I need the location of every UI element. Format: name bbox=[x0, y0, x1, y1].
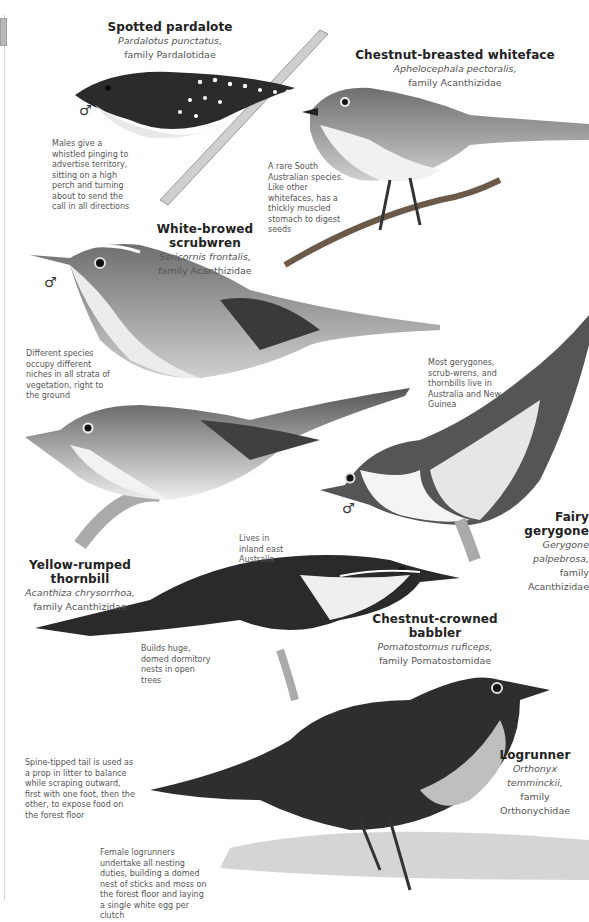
common-name: Spotted pardalote bbox=[100, 20, 240, 34]
common-name: Chestnut-breasted whiteface bbox=[355, 48, 555, 62]
species-label-chestnut-crowned-babbler: Chestnut-crowned babbler Pomatostomus ru… bbox=[370, 612, 500, 668]
common-name: Logrunner bbox=[485, 748, 585, 762]
scientific-name: Orthonyx temminckii, bbox=[485, 762, 585, 790]
species-label-yellow-rumped-thornbill: Yellow-rumped thornbill Acanthiza chryso… bbox=[15, 558, 145, 614]
common-name: White-browed scrubwren bbox=[135, 222, 275, 250]
family-name: family Orthonychidae bbox=[485, 790, 585, 818]
family-name: family Acanthizidae bbox=[355, 76, 555, 90]
male-symbol-scrubwren: ♂ bbox=[44, 274, 57, 290]
species-label-fairy-gerygone: Fairy gerygone Gerygone palpebrosa, fami… bbox=[500, 510, 589, 594]
note-scrubwren: Different species occupy different niche… bbox=[26, 349, 116, 402]
family-name: family Acanthizidae bbox=[15, 600, 145, 614]
species-label-spotted-pardalote: Spotted pardalote Pardalotus punctatus, … bbox=[100, 20, 240, 62]
common-name: Chestnut-crowned babbler bbox=[370, 612, 500, 640]
note-gerygone: Most gerygones, scrub-wrens, and thornbi… bbox=[428, 358, 508, 411]
scientific-name: Pardalotus punctatus, bbox=[100, 34, 240, 48]
female-symbol-logrunner: ♀ bbox=[508, 720, 518, 736]
note-logrunner-tail: Spine-tipped tail is used as a prop in l… bbox=[25, 758, 135, 821]
scientific-name: Aphelocephala pectoralis, bbox=[355, 62, 555, 76]
note-pardalote: Males give a whistled pinging to adverti… bbox=[52, 139, 137, 213]
male-symbol-gerygone: ♂ bbox=[342, 500, 355, 516]
scientific-name: Acanthiza chrysorrhoa, bbox=[15, 586, 145, 600]
family-name: family Pomatostomidae bbox=[370, 654, 500, 668]
scientific-name: Pomatostomus ruficeps, bbox=[370, 640, 500, 654]
common-name: Fairy gerygone bbox=[500, 510, 589, 538]
species-label-chestnut-breasted-whiteface: Chestnut-breasted whiteface Aphelocephal… bbox=[355, 48, 555, 90]
family-name: family Pardalotidae bbox=[100, 48, 240, 62]
scientific-name: Gerygone palpebrosa, bbox=[500, 538, 589, 566]
species-label-white-browed-scrubwren: White-browed scrubwren Sericornis fronta… bbox=[135, 222, 275, 278]
note-babbler: Builds huge, domed dormitory nests in op… bbox=[141, 644, 216, 686]
male-symbol-pardalote: ♂ bbox=[79, 102, 92, 118]
family-name: family Acanthizidae bbox=[135, 264, 275, 278]
yellow-rumped-thornbill-illustration bbox=[25, 388, 410, 545]
note-logrunner-nesting: Female logrunners undertake all nesting … bbox=[100, 848, 210, 922]
note-whiteface: A rare South Australian species. Like ot… bbox=[268, 162, 353, 236]
note-thornbill: Lives in inland east Australia bbox=[239, 534, 294, 566]
species-label-logrunner: Logrunner Orthonyx temminckii, family Or… bbox=[485, 748, 585, 818]
family-name: family Acanthizidae bbox=[500, 566, 589, 594]
scientific-name: Sericornis frontalis, bbox=[135, 250, 275, 264]
common-name: Yellow-rumped thornbill bbox=[15, 558, 145, 586]
